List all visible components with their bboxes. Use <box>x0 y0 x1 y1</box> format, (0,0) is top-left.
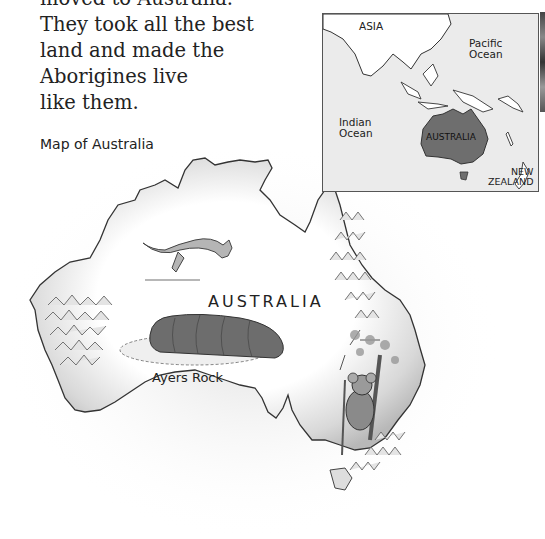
label-pacific-ocean: Pacific Ocean <box>469 38 503 60</box>
text-line: Aborigines live <box>40 64 310 90</box>
landmark-label: Ayers Rock <box>152 370 223 385</box>
inset-map: ASIA Pacific Ocean Indian Ocean AUSTRALI… <box>322 13 539 192</box>
body-text: moved to Australia. They took all the be… <box>40 0 310 116</box>
label-new-zealand: NEW ZEALAND <box>488 167 533 187</box>
label-asia: ASIA <box>359 21 383 32</box>
label-indian-ocean: Indian Ocean <box>339 117 373 139</box>
text-line: land and made the <box>40 38 310 64</box>
australia-main-map <box>0 150 545 539</box>
inset-map-drawing <box>323 14 539 192</box>
text-line: moved to Australia. <box>40 0 310 12</box>
text-line: like them. <box>40 90 310 116</box>
map-title: AUSTRALIA <box>208 292 324 311</box>
text-line: They took all the best <box>40 12 310 38</box>
label-australia: AUSTRALIA <box>426 132 476 143</box>
page-edge-strip <box>540 12 545 112</box>
